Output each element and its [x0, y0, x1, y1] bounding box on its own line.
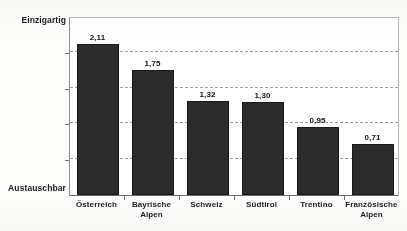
bar[interactable] — [187, 101, 229, 196]
bar-value-label: 0,95 — [310, 116, 326, 125]
y-axis-bottom-label: Austauschbar — [8, 183, 66, 193]
y-tick-1-5 — [65, 89, 69, 90]
bar[interactable] — [242, 102, 284, 195]
bar[interactable] — [132, 70, 174, 195]
y-tick-2 — [65, 53, 69, 54]
y-tick-0-5 — [65, 160, 69, 161]
x-axis-category-line: Österreich — [69, 200, 124, 210]
x-axis-category-line: Südtirol — [234, 200, 289, 210]
bar-value-label: 0,71 — [365, 133, 381, 142]
bar[interactable] — [297, 127, 339, 195]
x-axis-category-line: Alpen — [124, 210, 179, 220]
x-axis-category-line: Französische — [344, 200, 399, 210]
x-axis-category-line: Bayrische — [124, 200, 179, 210]
bar-slot: 1,30 — [235, 18, 290, 195]
bar-value-label: 2,11 — [90, 33, 106, 42]
bar-value-label: 1,30 — [255, 91, 271, 100]
bar-slot: 0,71 — [345, 18, 400, 195]
bar-slot: 1,75 — [125, 18, 180, 195]
y-axis-top-label: Einzigartig — [21, 15, 66, 25]
x-axis-category-label: FranzösischeAlpen — [344, 200, 399, 220]
cropped-title-remnant — [0, 0, 407, 7]
bar-series: 2,111,751,321,300,950,71 — [70, 18, 398, 195]
x-axis-category-line: Schweiz — [179, 200, 234, 210]
plot-area: 2,111,751,321,300,950,71 — [69, 17, 399, 196]
bar[interactable] — [77, 44, 119, 195]
bar-value-label: 1,75 — [145, 59, 161, 68]
bar[interactable] — [352, 144, 394, 195]
bar-value-label: 1,32 — [200, 90, 216, 99]
bar-slot: 0,95 — [290, 18, 345, 195]
bar-slot: 1,32 — [180, 18, 235, 195]
x-axis-category-line: Alpen — [344, 210, 399, 220]
x-axis-category-label: Österreich — [69, 200, 124, 210]
bar-slot: 2,11 — [70, 18, 125, 195]
chart-container: Einzigartig Austauschbar 2,111,751,321,3… — [0, 0, 407, 231]
x-axis-category-label: Schweiz — [179, 200, 234, 210]
y-tick-1 — [65, 124, 69, 125]
x-axis-category-label: Trentino — [289, 200, 344, 210]
x-axis-category-label: Südtirol — [234, 200, 289, 210]
x-axis-category-label: BayrischeAlpen — [124, 200, 179, 220]
x-axis-category-line: Trentino — [289, 200, 344, 210]
